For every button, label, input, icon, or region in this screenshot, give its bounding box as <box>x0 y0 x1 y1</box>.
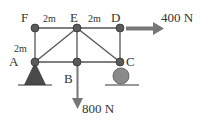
dimension-fe: 2m <box>43 14 56 24</box>
dimension-ed: 2m <box>88 14 101 24</box>
node-D <box>116 24 124 32</box>
node-C <box>116 58 124 66</box>
label-node-a: A <box>9 55 18 68</box>
truss-members <box>35 28 120 62</box>
dimension-fa: 2m <box>14 44 27 54</box>
label-node-f: F <box>21 11 28 24</box>
label-node-c: C <box>126 55 135 68</box>
label-node-e: E <box>70 11 78 24</box>
label-node-b: B <box>64 72 73 85</box>
node-B <box>73 58 81 66</box>
node-E <box>73 24 81 32</box>
node-A <box>31 58 39 66</box>
member-AE <box>35 28 77 62</box>
node-F <box>31 24 39 32</box>
load-label-800: 800 N <box>82 102 114 115</box>
roller-support-icon <box>113 68 129 84</box>
member-EC <box>77 28 120 62</box>
load-label-400: 400 N <box>161 11 193 24</box>
label-node-d: D <box>111 11 120 24</box>
